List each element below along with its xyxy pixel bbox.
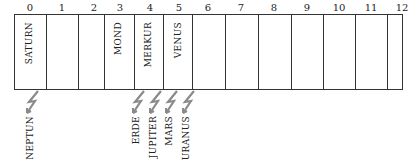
col-num-3: 3 [104, 2, 136, 13]
box-6 [192, 14, 226, 90]
col-num-6: 6 [192, 2, 224, 13]
box-1 [46, 14, 79, 90]
col-num-4: 4 [134, 2, 166, 13]
label-saturn: SATURN [24, 22, 34, 64]
col-num-1: 1 [46, 2, 78, 13]
col-num-5: 5 [163, 2, 195, 13]
label-merkur: MERKUR [143, 22, 153, 67]
label-jupiter: JUPITER [148, 116, 158, 158]
label-mond: MOND [113, 22, 123, 55]
col-num-11: 11 [355, 2, 387, 13]
box-12 [387, 14, 403, 90]
box-7 [225, 14, 259, 90]
col-num-9: 9 [291, 2, 323, 13]
bolt-icon-erde [130, 90, 148, 114]
bolt-icon-uranus [180, 90, 198, 114]
box-11 [355, 14, 388, 90]
box-2 [78, 14, 105, 90]
col-num-7: 7 [225, 2, 257, 13]
box-8 [258, 14, 292, 90]
label-erde: ERDE [131, 116, 141, 144]
bolt-icon-mars [163, 90, 181, 114]
col-num-0: 0 [14, 2, 46, 13]
label-mars: MARS [164, 116, 174, 146]
col-num-10: 10 [323, 2, 355, 13]
col-num-8: 8 [258, 2, 290, 13]
box-9 [291, 14, 324, 90]
col-num-12: 12 [386, 2, 414, 13]
label-uranus: URANUS [181, 116, 191, 160]
box-10 [323, 14, 356, 90]
label-neptun: NEPTUN [25, 116, 35, 160]
label-venus: VENUS [173, 22, 183, 58]
bolt-icon-neptun [24, 90, 42, 114]
